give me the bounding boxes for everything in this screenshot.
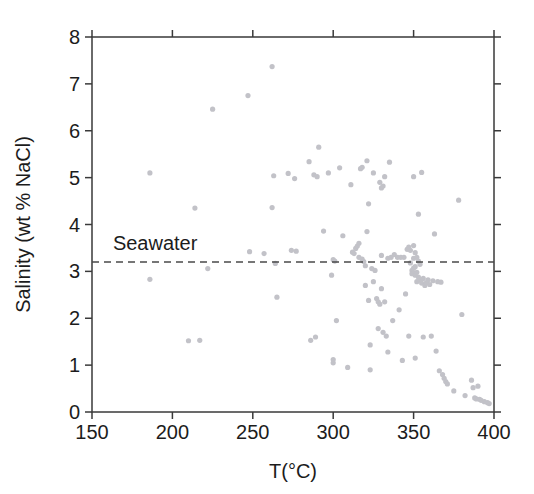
data-point	[411, 243, 416, 248]
data-point	[294, 249, 299, 254]
y-tick-label: 0	[69, 401, 80, 423]
x-axis-tick-labels: 150200250300350400	[75, 421, 510, 443]
data-point	[308, 338, 313, 343]
data-point	[192, 205, 197, 210]
data-point	[406, 333, 411, 338]
x-tick-label: 350	[397, 421, 430, 443]
data-point	[186, 338, 191, 343]
data-point	[451, 388, 456, 393]
y-tick-label: 8	[69, 26, 80, 48]
data-point	[368, 342, 373, 347]
y-tick-label: 6	[69, 120, 80, 142]
data-point	[366, 298, 371, 303]
data-point	[270, 205, 275, 210]
data-point	[429, 333, 434, 338]
data-point	[368, 367, 373, 372]
data-point	[408, 248, 413, 253]
x-tick-label: 300	[317, 421, 350, 443]
x-tick-label: 250	[236, 421, 269, 443]
y-axis-tick-labels: 012345678	[69, 26, 80, 423]
data-point	[352, 251, 357, 256]
data-point	[397, 307, 402, 312]
data-point	[205, 266, 210, 271]
data-point	[331, 357, 336, 362]
data-point	[364, 158, 369, 163]
data-point	[210, 107, 215, 112]
data-point	[306, 159, 311, 164]
x-axis-ticks	[92, 30, 494, 419]
data-point	[289, 248, 294, 253]
data-point	[345, 365, 350, 370]
data-point	[408, 260, 413, 265]
x-axis-title: T(°C)	[269, 460, 317, 482]
data-point	[147, 277, 152, 282]
data-point	[421, 276, 426, 281]
data-point	[459, 312, 464, 317]
data-point	[315, 174, 320, 179]
data-point	[270, 64, 275, 69]
data-point	[286, 171, 291, 176]
x-tick-label: 200	[156, 421, 189, 443]
data-point	[363, 283, 368, 288]
x-tick-label: 400	[477, 421, 510, 443]
data-point	[363, 263, 368, 268]
data-point	[387, 160, 392, 165]
plot-canvas: 150200250300350400 012345678 Seawater T(…	[0, 0, 534, 494]
data-point	[316, 145, 321, 150]
y-tick-label: 7	[69, 73, 80, 95]
seawater-reference-line: Seawater	[92, 232, 494, 262]
data-point	[247, 249, 252, 254]
data-point	[401, 255, 406, 260]
data-point	[414, 270, 419, 275]
y-tick-label: 2	[69, 307, 80, 329]
data-point	[390, 318, 395, 323]
data-point	[245, 93, 250, 98]
data-point	[400, 358, 405, 363]
data-point	[382, 299, 387, 304]
data-point	[413, 355, 418, 360]
data-point	[382, 174, 387, 179]
data-point	[313, 334, 318, 339]
data-point	[356, 241, 361, 246]
data-point	[432, 231, 437, 236]
data-point	[384, 333, 389, 338]
data-point	[438, 280, 443, 285]
data-point	[340, 233, 345, 238]
data-point	[261, 251, 266, 256]
data-point	[376, 326, 381, 331]
y-tick-label: 5	[69, 167, 80, 189]
data-point	[379, 253, 384, 258]
plot-box	[92, 37, 494, 412]
data-point	[413, 264, 418, 269]
data-point	[462, 393, 467, 398]
data-point	[471, 385, 476, 390]
data-point	[332, 258, 337, 263]
data-point	[434, 348, 439, 353]
y-axis-title: Salinity (wt % NaCl)	[12, 136, 34, 313]
data-point	[421, 334, 426, 339]
data-point	[430, 278, 435, 283]
data-point	[475, 384, 480, 389]
data-point	[445, 381, 450, 386]
data-point	[413, 250, 418, 255]
y-tick-label: 1	[69, 354, 80, 376]
seawater-label: Seawater	[113, 232, 198, 254]
y-axis-ticks	[85, 37, 501, 412]
data-points-layer	[147, 64, 491, 406]
data-point	[271, 173, 276, 178]
data-point	[364, 229, 369, 234]
data-point	[321, 228, 326, 233]
data-point	[377, 302, 382, 307]
data-point	[371, 170, 376, 175]
data-point	[469, 378, 474, 383]
data-point	[372, 268, 377, 273]
x-tick-label: 150	[75, 421, 108, 443]
data-point	[456, 198, 461, 203]
data-point	[274, 295, 279, 300]
data-point	[334, 318, 339, 323]
plot-frame	[92, 37, 494, 412]
data-point	[326, 170, 331, 175]
y-tick-label: 3	[69, 260, 80, 282]
data-point	[425, 277, 430, 282]
data-point	[147, 170, 152, 175]
